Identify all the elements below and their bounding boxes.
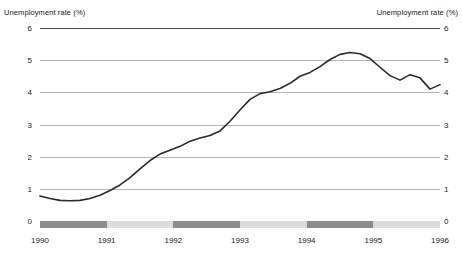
series-line-unemployment-rate bbox=[40, 52, 440, 200]
unemployment-rate-chart: Unemployment rate (%) Unemployment rate … bbox=[0, 0, 463, 256]
series-plot bbox=[0, 0, 463, 256]
